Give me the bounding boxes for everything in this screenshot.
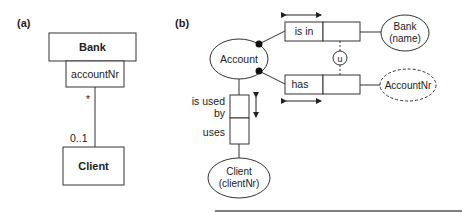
- multiplicity-many: *: [86, 94, 90, 105]
- account-label: Account: [220, 53, 258, 65]
- uniqueness-label: u: [337, 54, 342, 64]
- uses-label: uses: [203, 126, 225, 138]
- mandatory-dot-icon: [256, 41, 263, 48]
- fact-is-in-role2: [323, 22, 360, 41]
- is-used-by-label-line2: by: [214, 107, 226, 119]
- fact-is-in-label: is in: [295, 25, 314, 37]
- panel-a-label: (a): [17, 17, 31, 29]
- panel-b-label: (b): [175, 17, 189, 29]
- bank-refmode: (name): [389, 33, 421, 44]
- bank-label: Bank: [394, 21, 418, 32]
- client-refmode: (clientNr): [219, 178, 260, 189]
- account-is-in-connector: [259, 31, 285, 44]
- fact-has-role2: [323, 75, 360, 94]
- fact-has-label: has: [292, 78, 309, 90]
- panel-b: (b) Account is in Bank (name) u has Acco: [175, 15, 436, 198]
- panel-a: (a) Bank accountNr * 0..1 Client: [17, 17, 136, 185]
- mandatory-dot-icon: [256, 68, 263, 75]
- fact-uses-role1: [230, 95, 249, 118]
- qualifier-label: accountNr: [71, 68, 119, 80]
- bank-class-label: Bank: [79, 41, 107, 53]
- diagram-canvas: (a) Bank accountNr * 0..1 Client (b) Acc…: [0, 0, 462, 212]
- fact-uses-role2: [230, 118, 249, 144]
- is-used-by-label-line1: is used: [192, 95, 225, 107]
- client-class-label: Client: [78, 160, 109, 172]
- multiplicity-zero-one: 0..1: [70, 132, 88, 144]
- account-has-connector: [259, 71, 285, 84]
- client-label: Client: [226, 166, 252, 177]
- accountnr-label: AccountNr: [385, 80, 432, 91]
